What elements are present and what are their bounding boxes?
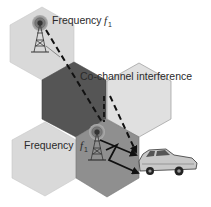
top-frequency-label: Frequency f 1 [52,14,112,28]
svg-text:1: 1 [84,146,88,153]
svg-text:Frequency: Frequency [24,139,74,151]
svg-text:1: 1 [108,21,112,28]
interference-label: Co-channel interference [80,70,192,82]
svg-text:Frequency: Frequency [52,14,102,26]
co-channel-interference-diagram: Frequency f 1 Co-channel interference Fr… [0,0,211,207]
car-icon [139,149,197,176]
cell-bottom-left [12,122,76,196]
